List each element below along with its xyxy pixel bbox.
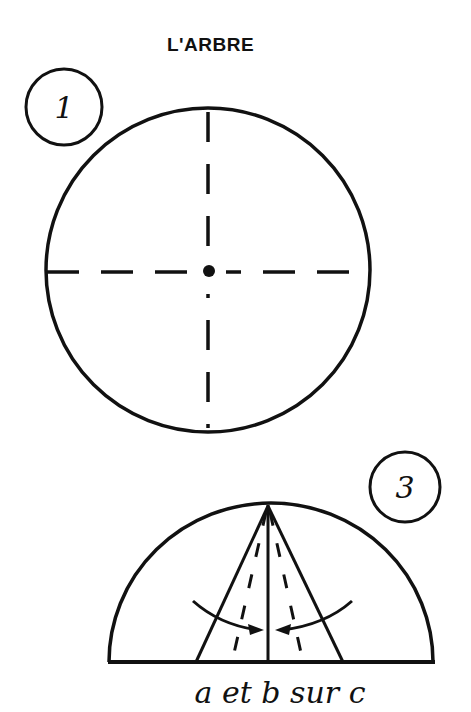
arrow-left-head	[248, 624, 264, 635]
step-3-number: 3	[395, 470, 414, 505]
step-3-semicircle-figure	[108, 503, 435, 662]
dashed-fold-right	[270, 512, 303, 662]
step-1-circle-figure	[46, 108, 370, 432]
step-3-badge: 3	[370, 452, 440, 522]
fold-line-b	[268, 506, 343, 662]
step-3-caption: a et b sur c	[195, 675, 366, 710]
center-point	[203, 265, 215, 277]
dashed-fold-left	[232, 512, 266, 662]
diagram-canvas: 1 3 a et b sur c	[0, 0, 471, 712]
arrow-left	[193, 601, 258, 630]
fold-line-a	[196, 506, 268, 662]
step-1-badge: 1	[26, 69, 102, 145]
step-1-number: 1	[54, 90, 73, 125]
arrow-right-head	[275, 624, 291, 635]
